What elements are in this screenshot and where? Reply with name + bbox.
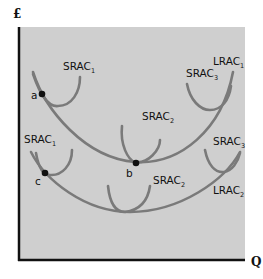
- point-b-label: b: [126, 167, 133, 179]
- point-a-label: a: [31, 89, 37, 101]
- y-axis-label: £: [13, 7, 21, 21]
- point-c: [42, 170, 49, 177]
- cost-curves-diagram: £ Q a b c SRAC1 SRAC3 LRAC1 SRAC2 SRAC1 …: [0, 0, 263, 279]
- point-b: [133, 160, 140, 167]
- x-axis-label: Q: [251, 255, 261, 269]
- point-a: [39, 91, 46, 98]
- point-c-label: c: [35, 175, 41, 187]
